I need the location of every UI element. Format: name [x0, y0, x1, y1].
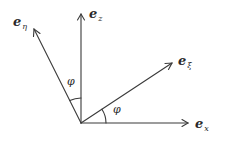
label-e-x: ex [195, 117, 209, 133]
arrowhead-xi-icon [165, 63, 172, 70]
angle-label-phi-lower: φ [113, 104, 121, 115]
angle-arc-lower [102, 109, 106, 123]
label-e-z-base: e [89, 6, 97, 21]
label-e-eta: eη [13, 15, 27, 31]
axis-xi-line [81, 63, 172, 123]
angle-arc-upper [70, 98, 81, 101]
label-e-xi-subscript: ξ [187, 61, 191, 70]
basis-vector-diagram: ex ez eξ eη φ φ [0, 0, 226, 144]
label-e-xi: eξ [178, 54, 192, 70]
label-e-eta-subscript: η [22, 22, 27, 31]
label-e-eta-base: e [13, 14, 21, 29]
label-e-x-subscript: x [204, 124, 209, 133]
diagram-canvas [0, 0, 226, 144]
angle-label-phi-upper: φ [67, 76, 75, 87]
label-e-x-base: e [195, 116, 203, 131]
label-e-z-subscript: z [98, 14, 102, 23]
label-e-xi-base: e [178, 53, 186, 68]
label-e-z: ez [89, 7, 103, 23]
